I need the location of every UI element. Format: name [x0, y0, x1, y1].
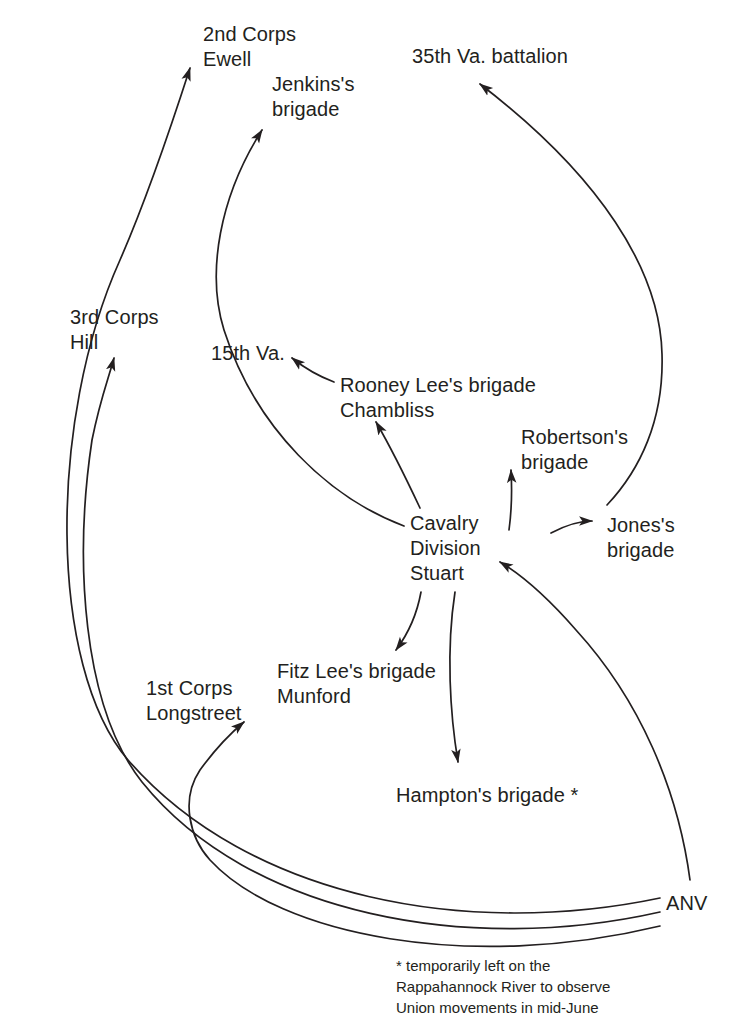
node-hampton: Hampton's brigade * [396, 783, 579, 808]
org-diagram: 2nd CorpsEwellJenkins'sbrigade35th Va. b… [0, 0, 747, 1027]
node-label-line: brigade [521, 450, 628, 475]
node-label-line: Munford [277, 684, 436, 709]
node-label-line: Hill [70, 330, 159, 355]
node-label-line: Jones's [607, 513, 675, 538]
node-first_corps: 1st CorpsLongstreet [146, 676, 242, 726]
edge-rooney-to-15th-va [292, 358, 334, 382]
node-label-line: brigade [272, 97, 355, 122]
node-label-line: Stuart [410, 561, 481, 586]
footnote-line: * temporarily left on the [396, 955, 610, 976]
node-va15: 15th Va. [211, 341, 285, 366]
node-label-line: Rooney Lee's brigade [340, 373, 536, 398]
node-label-line: Division [410, 536, 481, 561]
node-label-line: Hampton's brigade * [396, 783, 579, 808]
node-label-line: Robertson's [521, 425, 628, 450]
edge-cavalry-to-rooney [376, 422, 420, 508]
node-label-line: 35th Va. battalion [412, 44, 568, 69]
edge-cavalry-to-hampton [450, 592, 458, 762]
node-label-line: Jenkins's [272, 72, 355, 97]
node-label-line: ANV [666, 891, 707, 916]
node-rooney_lee: Rooney Lee's brigadeChambliss [340, 373, 536, 423]
edge-cavalry-to-jones [551, 521, 592, 533]
footnote-line: Union movements in mid-June [396, 997, 610, 1018]
node-label-line: 3rd Corps [70, 305, 159, 330]
edge-cavalry-to-jenkins [216, 130, 404, 526]
node-label-line: Chambliss [340, 398, 536, 423]
node-cavalry: CavalryDivisionStuart [410, 511, 481, 586]
node-label-line: brigade [607, 538, 675, 563]
node-label-line: Longstreet [146, 701, 242, 726]
edge-cavalry-to-robertson [509, 470, 512, 530]
edges-group [67, 68, 690, 946]
node-label-line: 1st Corps [146, 676, 242, 701]
node-jenkins: Jenkins'sbrigade [272, 72, 355, 122]
node-fitz_lee: Fitz Lee's brigadeMunford [277, 659, 436, 709]
edge-anv-to-first-corps [189, 722, 660, 946]
node-third_corps: 3rd CorpsHill [70, 305, 159, 355]
footnote-note: * temporarily left on theRappahannock Ri… [396, 955, 610, 1018]
edge-cavalry-to-fitz-lee [396, 592, 421, 650]
node-label-line: Fitz Lee's brigade [277, 659, 436, 684]
footnote-line: Rappahannock River to observe [396, 976, 610, 997]
edge-anv-to-cavalry [500, 562, 690, 880]
node-jones: Jones'sbrigade [607, 513, 675, 563]
node-label-line: Cavalry [410, 511, 481, 536]
node-anv: ANV [666, 891, 707, 916]
node-robertson: Robertson'sbrigade [521, 425, 628, 475]
node-label-line: 15th Va. [211, 341, 285, 366]
node-label-line: 2nd Corps [203, 22, 296, 47]
node-label-line: Ewell [203, 47, 296, 72]
node-second_corps: 2nd CorpsEwell [203, 22, 296, 72]
node-va35: 35th Va. battalion [412, 44, 568, 69]
